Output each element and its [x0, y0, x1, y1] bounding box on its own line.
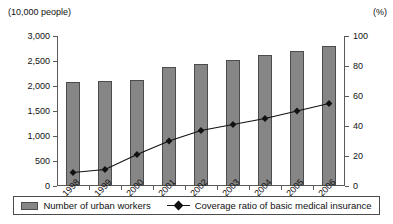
right-tick-mark [345, 96, 349, 97]
right-tick-label: 0 [353, 182, 358, 191]
legend-label: Number of urban workers [43, 200, 150, 211]
right-tick-mark [345, 186, 349, 187]
line-marker [134, 151, 141, 158]
category-tick-mark [185, 186, 186, 190]
chart-legend: Number of urban workersCoverage ratio of… [13, 196, 380, 215]
left-axis-unit-label: (10,000 people) [8, 7, 71, 18]
legend-label: Coverage ratio of basic medical insuranc… [195, 200, 372, 211]
right-tick-label: 80 [353, 62, 363, 71]
line-marker [230, 121, 237, 128]
left-tick-label: 1,500 [27, 107, 50, 116]
legend-entry: Number of urban workers [21, 200, 150, 211]
left-tick-label: 1,000 [27, 132, 50, 141]
right-tick-label: 60 [353, 92, 363, 101]
plot-area: 05001,0001,5002,0002,5003,000 0204060801… [57, 36, 345, 186]
category-tick-mark [313, 186, 314, 190]
line-marker [326, 100, 333, 107]
legend-entry: Coverage ratio of basic medical insuranc… [167, 200, 372, 211]
right-tick-label: 100 [353, 32, 368, 41]
right-tick-mark [345, 66, 349, 67]
line-marker [198, 127, 205, 134]
category-tick-mark [281, 186, 282, 190]
right-axis-unit-label: (%) [373, 7, 387, 18]
left-tick-label: 0 [45, 182, 50, 191]
left-tick-label: 3,000 [27, 32, 50, 41]
category-tick-mark [153, 186, 154, 190]
right-tick-mark [345, 36, 349, 37]
left-tick-label: 2,000 [27, 82, 50, 91]
right-tick-label: 20 [353, 152, 363, 161]
right-tick-mark [345, 126, 349, 127]
category-tick-mark [121, 186, 122, 190]
bar-swatch-icon [21, 202, 38, 210]
category-tick-mark [217, 186, 218, 190]
left-tick-label: 2,500 [27, 57, 50, 66]
line-diamond-icon [167, 201, 190, 210]
line-marker [262, 115, 269, 122]
left-tick-mark [53, 186, 57, 187]
chart-figure: (10,000 people) (%) 05001,0001,5002,0002… [0, 0, 393, 224]
line-series [57, 36, 345, 186]
line-marker [166, 138, 173, 145]
line-path [73, 104, 329, 173]
right-tick-label: 40 [353, 122, 363, 131]
category-tick-mark [249, 186, 250, 190]
line-marker [294, 108, 301, 115]
category-tick-mark [89, 186, 90, 190]
right-tick-mark [345, 156, 349, 157]
line-marker [102, 166, 109, 173]
line-marker [70, 169, 77, 176]
left-tick-label: 500 [35, 157, 50, 166]
